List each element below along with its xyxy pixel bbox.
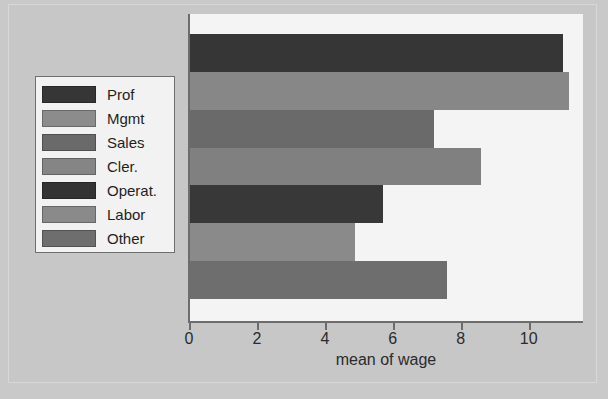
x-tick-label: 0 xyxy=(185,330,194,348)
legend-swatch-icon xyxy=(42,86,96,103)
x-tick-mark xyxy=(189,323,191,330)
legend-swatch-icon xyxy=(42,158,96,175)
legend-box: ProfMgmtSalesCler.Operat.LaborOther xyxy=(35,76,175,253)
legend-item-other[interactable]: Other xyxy=(36,226,174,250)
legend-item-label: Cler. xyxy=(107,159,138,174)
x-tick-label: 8 xyxy=(456,330,465,348)
x-tick-label: 4 xyxy=(320,330,329,348)
x-tick-label: 10 xyxy=(520,330,538,348)
legend-item-labor[interactable]: Labor xyxy=(36,202,174,226)
legend-item-prof[interactable]: Prof xyxy=(36,82,174,106)
x-tick-label: 6 xyxy=(388,330,397,348)
legend-item-sales[interactable]: Sales xyxy=(36,130,174,154)
legend-item-label: Prof xyxy=(107,87,135,102)
legend-swatch-icon xyxy=(42,134,96,151)
x-tick-mark xyxy=(257,323,259,330)
legend-item-cler[interactable]: Cler. xyxy=(36,154,174,178)
bar-prof xyxy=(189,34,563,72)
bar-labor xyxy=(189,223,355,261)
legend-item-label: Sales xyxy=(107,135,145,150)
x-tick-mark xyxy=(461,323,463,330)
x-axis-line xyxy=(189,321,583,323)
legend-item-label: Labor xyxy=(107,207,145,222)
x-tick-mark xyxy=(393,323,395,330)
legend-item-operat[interactable]: Operat. xyxy=(36,178,174,202)
legend-swatch-icon xyxy=(42,230,96,247)
bar-sales xyxy=(189,110,434,148)
y-axis-line xyxy=(188,14,190,323)
bar-chart-figure: 0246810 mean of wage ProfMgmtSalesCler.O… xyxy=(0,0,608,399)
legend-item-mgmt[interactable]: Mgmt xyxy=(36,106,174,130)
legend-item-label: Other xyxy=(107,231,145,246)
legend-swatch-icon xyxy=(42,182,96,199)
x-tick-mark xyxy=(529,323,531,330)
bar-operat xyxy=(189,185,383,223)
bar-cler xyxy=(189,148,481,186)
plot-panel xyxy=(189,14,583,322)
legend-swatch-icon xyxy=(42,110,96,127)
bars-container xyxy=(189,14,583,322)
bar-mgmt xyxy=(189,72,569,110)
bar-other xyxy=(189,261,447,299)
legend-item-label: Mgmt xyxy=(107,111,145,126)
legend-item-label: Operat. xyxy=(107,183,157,198)
x-axis-label: mean of wage xyxy=(189,351,583,369)
x-tick-mark xyxy=(325,323,327,330)
x-tick-label: 2 xyxy=(252,330,261,348)
legend-swatch-icon xyxy=(42,206,96,223)
